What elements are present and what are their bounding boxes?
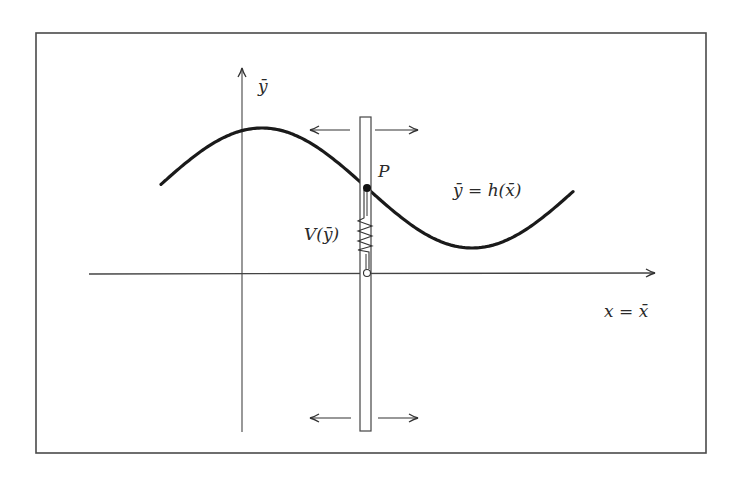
- y-axis-label: ȳ: [257, 76, 268, 96]
- x-axis: [89, 273, 655, 274]
- x-axis-label: x = x̄: [604, 301, 649, 321]
- anchor-circle-icon: [364, 270, 371, 277]
- spring-label: V(ȳ): [304, 224, 339, 244]
- curve-label: ȳ = h(x̄): [452, 180, 521, 200]
- point-p-label: P: [377, 161, 390, 181]
- point-p-icon: [363, 184, 371, 192]
- diagram-canvas: ȳ P ȳ = h(x̄) V(ȳ) x = x̄: [0, 0, 737, 481]
